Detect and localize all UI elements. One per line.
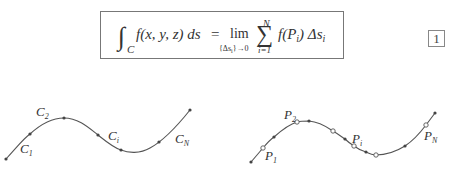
- curve-endpoint: [4, 157, 7, 160]
- equation-number: 1: [428, 30, 445, 47]
- curve-c-sampled: [251, 113, 435, 162]
- curve-endpoint: [188, 108, 191, 111]
- partition-point: [96, 133, 99, 136]
- label-pi: Pi: [351, 131, 362, 148]
- line-integral-figure: ∫ C f(x, y, z) ds = lim {Δsi}→0 N ∑ i=1 …: [0, 0, 457, 178]
- partition-point: [343, 137, 346, 140]
- partition-point: [62, 116, 65, 119]
- curve-endpoint: [433, 111, 436, 114]
- label-pn: PN: [423, 128, 438, 145]
- label-p2: P2: [283, 107, 296, 124]
- label-c1: C1: [20, 141, 33, 158]
- sample-point: [424, 123, 428, 127]
- right-curve-figure: P1 P2 Pi PN: [249, 107, 438, 165]
- partition-point: [28, 132, 31, 135]
- summand: f(Pi) Δsi: [278, 26, 326, 44]
- label-c2: C2: [36, 104, 49, 121]
- label-ci: Ci: [108, 128, 119, 145]
- sum-lower-limit: i=1: [258, 45, 271, 55]
- integral-sign: ∫: [116, 22, 127, 52]
- integrand: f(x, y, z) ds: [136, 26, 201, 43]
- sample-point: [374, 153, 378, 157]
- partition-point: [272, 135, 275, 138]
- equals-sign: =: [211, 26, 219, 42]
- curve-endpoint: [249, 160, 252, 163]
- partition-point: [119, 148, 122, 151]
- sample-point: [331, 129, 335, 133]
- partition-point: [307, 119, 310, 122]
- partition-point: [403, 144, 406, 147]
- sigma-sign: ∑: [256, 21, 273, 48]
- label-cn: CN: [175, 131, 190, 148]
- partition-point: [157, 140, 160, 143]
- formula: ∫ C f(x, y, z) ds = lim {Δsi}→0 N ∑ i=1 …: [116, 18, 326, 55]
- left-curve-figure: C1 C2 Ci CN: [4, 104, 191, 161]
- lim-label: lim: [230, 26, 249, 41]
- lim-subscript: {Δsi}→0: [219, 44, 249, 54]
- partition-point: [364, 150, 367, 153]
- integral-subscript: C: [127, 43, 135, 55]
- label-p1: P1: [264, 148, 277, 165]
